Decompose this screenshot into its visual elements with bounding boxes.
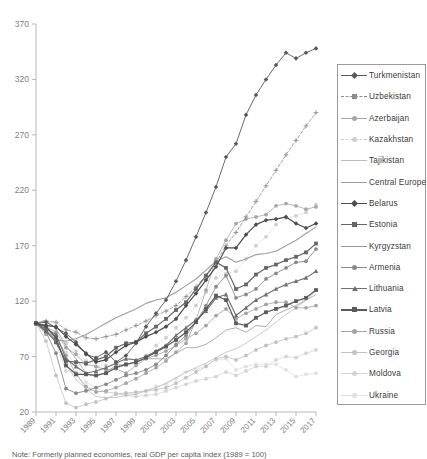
data-point: [134, 323, 139, 328]
legend-item-armenia[interactable]: Armenia: [338, 257, 425, 278]
data-point: [154, 354, 158, 358]
legend-item-georgia[interactable]: Georgia: [338, 342, 425, 363]
legend-item-lithuania[interactable]: Lithuania: [338, 278, 425, 299]
data-point: [204, 210, 209, 215]
data-point: [164, 336, 168, 340]
legend-item-latvia[interactable]: Latvia: [338, 299, 425, 320]
legend-item-turkmenistan[interactable]: Turkmenistan: [338, 65, 425, 86]
data-point: [314, 110, 319, 115]
data-point: [304, 351, 308, 355]
x-tick-label: 2005: [178, 416, 197, 435]
data-point: [244, 354, 248, 358]
data-point: [44, 329, 48, 333]
data-point: [304, 207, 308, 211]
data-point: [94, 374, 98, 378]
y-tick-label: 20: [20, 407, 30, 417]
data-point: [184, 382, 188, 386]
data-point: [274, 300, 278, 304]
legend-item-kazakhstan[interactable]: Kazakhstan: [338, 129, 425, 150]
data-point: [294, 138, 299, 143]
legend-swatch-icon: [341, 262, 367, 272]
data-point: [244, 293, 248, 297]
data-point: [304, 296, 308, 300]
data-point: [164, 317, 168, 321]
data-point: [254, 307, 258, 311]
data-point: [84, 372, 88, 376]
legend-item-ukraine[interactable]: Ukraine: [338, 384, 425, 405]
data-point: [134, 364, 138, 368]
data-point: [94, 390, 98, 394]
legend-item-label: Tajikistan: [367, 156, 404, 165]
legend-item-moldova[interactable]: Moldova: [338, 363, 425, 384]
data-point: [164, 359, 168, 363]
data-point: [184, 341, 188, 345]
data-point: [84, 361, 88, 365]
legend-item-label: Kyrgyzstan: [367, 242, 411, 251]
legend-item-azerbaijan[interactable]: Azerbaijan: [338, 108, 425, 129]
legend-item-tajikistan[interactable]: Tajikistan: [338, 150, 425, 171]
legend-item-uzbekistan[interactable]: Uzbekistan: [338, 86, 425, 107]
legend-item-russia[interactable]: Russia: [338, 321, 425, 342]
data-point: [314, 221, 319, 226]
data-point: [224, 292, 228, 296]
legend-item-label: Armenia: [367, 263, 401, 272]
data-point: [84, 335, 89, 340]
data-point: [174, 303, 179, 308]
data-point: [164, 354, 168, 358]
data-point: [194, 304, 198, 308]
legend-item-label: Belarus: [367, 199, 398, 208]
data-point: [284, 368, 288, 372]
data-point: [274, 204, 278, 208]
data-point: [274, 307, 278, 311]
data-point: [84, 385, 88, 389]
data-point: [224, 355, 228, 359]
data-point: [224, 307, 228, 311]
data-point: [224, 298, 228, 302]
legend-marker-icon: [352, 137, 357, 142]
data-point: [264, 365, 268, 369]
legend-item-belarus[interactable]: Belarus: [338, 193, 425, 214]
legend-marker-icon: [352, 329, 357, 334]
data-point: [154, 344, 158, 348]
legend-marker-icon: [351, 200, 358, 207]
data-point: [114, 386, 118, 390]
legend-item-label: Uzbekistan: [367, 92, 411, 101]
data-point: [184, 316, 188, 320]
data-point: [194, 370, 198, 374]
data-point: [314, 326, 318, 330]
data-point: [234, 230, 239, 235]
data-point: [304, 306, 308, 310]
data-point: [274, 223, 278, 227]
x-tick-label: 2011: [239, 416, 258, 435]
data-point: [234, 368, 238, 372]
data-point: [204, 307, 208, 311]
data-point: [144, 368, 148, 372]
legend-item-label: Latvia: [367, 305, 392, 314]
legend-item-estonia[interactable]: Estonia: [338, 214, 425, 235]
data-point: [284, 266, 288, 270]
data-point: [234, 358, 238, 362]
legend-item-central-europe[interactable]: Central Europe: [338, 171, 425, 192]
data-point: [294, 356, 298, 360]
data-point: [224, 370, 228, 374]
data-point: [244, 324, 248, 328]
data-point: [314, 247, 318, 251]
data-point: [184, 337, 188, 341]
series-line: [36, 48, 316, 362]
data-point: [304, 250, 308, 254]
data-point: [134, 360, 138, 364]
legend-marker-icon: [352, 265, 357, 270]
data-point: [204, 324, 208, 328]
legend-item-kyrgyzstan[interactable]: Kyrgyzstan: [338, 235, 425, 256]
data-point: [284, 258, 288, 262]
data-point: [214, 276, 218, 280]
data-point: [164, 389, 168, 393]
data-point: [154, 330, 159, 335]
data-point: [64, 369, 68, 373]
data-point: [144, 319, 149, 324]
legend-swatch-icon: [341, 71, 367, 81]
data-point: [304, 211, 308, 215]
data-point: [64, 401, 68, 405]
data-point: [164, 345, 168, 349]
